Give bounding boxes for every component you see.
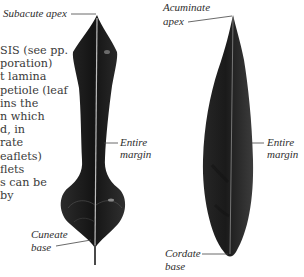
left-entire-margin-label-line1: Entire (120, 136, 147, 148)
right-leaf (203, 15, 253, 257)
right-leaf-blade (203, 15, 253, 257)
cuneate-base-label-line2: base (31, 241, 51, 253)
right-entire-margin-label-line1: Entire (267, 136, 294, 148)
cordate-base-label-line1: Cordate (165, 247, 201, 259)
left-entire-margin-label-line2: margin (120, 148, 151, 160)
cuneate-base-label-line1: Cuneate (31, 228, 68, 240)
cuneate-base-leader (56, 240, 91, 246)
acuminate-apex-leader (188, 16, 232, 22)
left-leaf-blade (61, 15, 125, 248)
left-leaf (61, 15, 125, 265)
acuminate-apex-label-line2: apex (163, 15, 184, 27)
leaf-shapes-figure: SIS (see pp. poration) t lamina petiole … (0, 0, 304, 277)
cordate-base-label-line2: base (165, 260, 185, 272)
subacute-apex-label: Subacute apex (3, 7, 67, 19)
right-entire-margin-label-line2: margin (267, 148, 298, 160)
acuminate-apex-label-line1: Acuminate (163, 1, 210, 13)
